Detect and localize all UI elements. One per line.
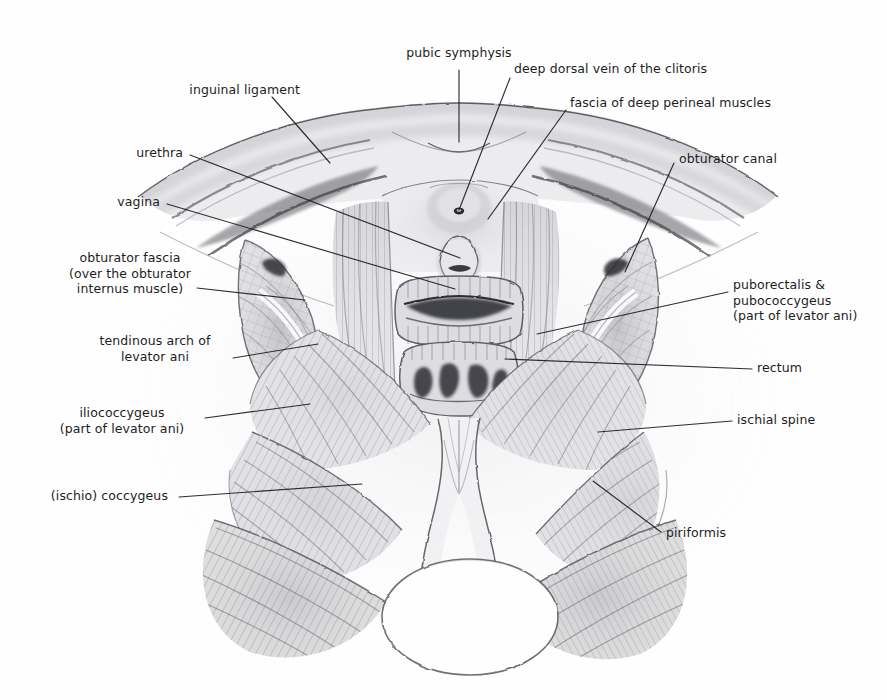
label-pubic-symphysis: pubic symphysis <box>299 45 619 61</box>
label-rectum: rectum <box>757 360 802 376</box>
label-fascia-of-deep-perineal-muscles: fascia of deep perineal muscles <box>570 95 771 111</box>
label-obturator-fascia: obturator fascia (over the obturator int… <box>0 250 290 297</box>
label-obturator-canal: obturator canal <box>679 151 777 167</box>
label-ischial-spine: ischial spine <box>737 412 815 428</box>
anatomy-figure: pubic symphysisinguinal ligamentdeep dor… <box>0 0 887 700</box>
label-ischio-coccygeus: (ischio) coccygeus <box>0 488 168 504</box>
label-puborectalis-pubococcygeus: puborectalis & pubococcygeus (part of le… <box>733 277 857 324</box>
label-piriformis: piriformis <box>666 525 726 541</box>
label-deep-dorsal-vein-of-the-clitoris: deep dorsal vein of the clitoris <box>514 61 707 77</box>
label-urethra: urethra <box>0 145 183 161</box>
label-tendinous-arch-of-levator-ani: tendinous arch of levator ani <box>0 333 315 364</box>
label-vagina: vagina <box>0 194 160 210</box>
label-iliococcygeus: iliococcygeus (part of levator ani) <box>0 405 282 436</box>
label-inguinal-ligament: inguinal ligament <box>0 82 300 98</box>
